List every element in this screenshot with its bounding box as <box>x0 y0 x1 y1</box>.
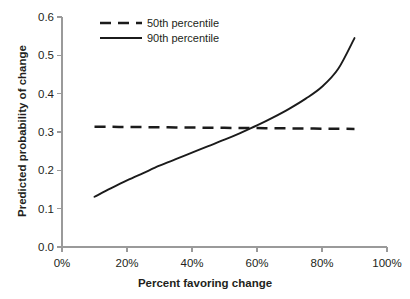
y-axis-ticks <box>57 17 62 247</box>
legend-label-50th-percentile: 50th percentile <box>147 17 219 29</box>
data-series-group <box>95 38 355 197</box>
x-axis-ticks <box>62 247 387 252</box>
chart-plot-area <box>0 0 410 299</box>
x-tick-label: 100% <box>372 257 401 269</box>
axes-group <box>57 17 387 252</box>
legend-swatches <box>100 23 142 38</box>
legend-label-90th-percentile: 90th percentile <box>147 32 219 44</box>
x-axis-title: Percent favoring change <box>0 277 410 289</box>
x-tick-label: 40% <box>180 257 203 269</box>
y-axis-title: Predicted probability of change <box>16 16 28 246</box>
series-line-90th-percentile <box>95 38 355 197</box>
x-tick-label: 0% <box>54 257 71 269</box>
x-tick-label: 20% <box>115 257 138 269</box>
x-tick-label: 80% <box>310 257 333 269</box>
x-tick-label: 60% <box>245 257 268 269</box>
series-line-50th-percentile <box>95 127 355 129</box>
chart-figure: 0.00.10.20.30.40.50.6 0%20%40%60%80%100%… <box>0 0 410 299</box>
